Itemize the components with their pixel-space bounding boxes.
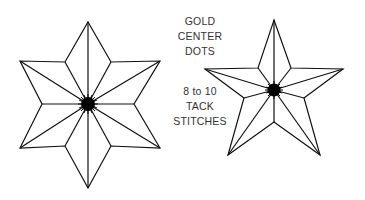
tack-stitches-label: 8 to 10 TACK STITCHES — [160, 84, 240, 129]
label-line-stitches: STITCHES — [160, 114, 240, 129]
label-line-tack: TACK — [160, 99, 240, 114]
gold-center-dots-label: GOLD CENTER DOTS — [165, 14, 235, 59]
label-line-gold: GOLD — [165, 14, 235, 29]
six-point-star-center-dot — [78, 94, 98, 114]
label-line-dots: DOTS — [165, 44, 235, 59]
label-line-center: CENTER — [165, 29, 235, 44]
five-point-star-center-dot — [265, 81, 283, 99]
label-line-count: 8 to 10 — [160, 84, 240, 99]
